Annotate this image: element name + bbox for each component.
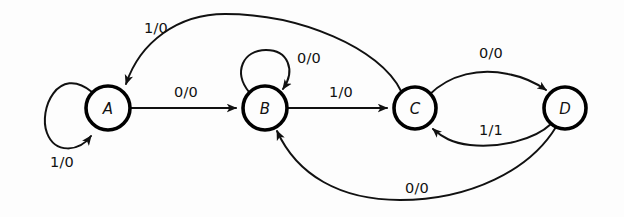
transition-a-self: 1/0: [45, 83, 92, 170]
transition-c-to-d: 0/0: [429, 45, 546, 95]
state-node-d[interactable]: D: [544, 87, 586, 129]
transition-d-to-b-label: 0/0: [405, 180, 429, 196]
transition-a-self-label: 1/0: [50, 154, 74, 170]
transition-c-to-a-label: 1/0: [144, 20, 168, 36]
transition-d-to-c: 1/1: [433, 122, 551, 146]
state-c-label: C: [410, 100, 421, 118]
state-node-a[interactable]: A: [86, 86, 130, 130]
transition-b-self-label: 0/0: [297, 50, 321, 66]
transition-d-to-b: 0/0: [277, 127, 556, 200]
state-a-label: A: [102, 100, 113, 118]
transition-a-to-b: 0/0: [131, 84, 236, 108]
state-machine-diagram: 1/0 0/0 0/0 1/0 1/0 0/0 1/: [0, 0, 624, 217]
transition-c-to-a: 1/0: [126, 14, 401, 91]
state-node-b[interactable]: B: [243, 86, 287, 130]
state-b-label: B: [260, 100, 270, 118]
state-d-label: D: [559, 100, 571, 118]
transition-a-self-path: [45, 83, 92, 148]
transition-a-to-b-label: 0/0: [174, 84, 198, 100]
state-node-c[interactable]: C: [394, 87, 436, 129]
transition-b-to-c: 1/0: [288, 84, 387, 108]
transition-d-to-c-label: 1/1: [479, 122, 503, 138]
transition-b-to-c-label: 1/0: [329, 84, 353, 100]
transition-b-self: 0/0: [241, 50, 321, 92]
state-diagram-canvas: 1/0 0/0 0/0 1/0 1/0 0/0 1/: [0, 0, 624, 217]
transition-c-to-d-label: 0/0: [479, 45, 503, 61]
transition-c-to-d-path: [429, 72, 546, 95]
